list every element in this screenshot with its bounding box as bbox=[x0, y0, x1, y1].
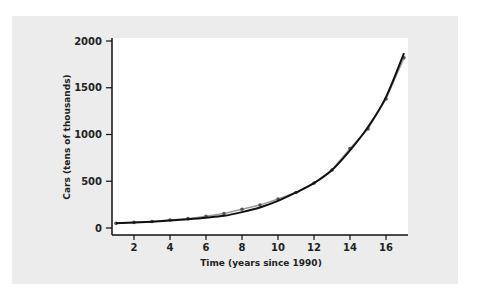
y-tick-label: 1000 bbox=[74, 129, 102, 140]
x-tick-label: 16 bbox=[379, 242, 393, 253]
x-tick-label: 12 bbox=[307, 242, 321, 253]
x-axis-title: Time (years since 1990) bbox=[200, 258, 322, 268]
line-chart: 0500100015002000 246810121416 Time (year… bbox=[0, 0, 477, 303]
y-tick-label: 0 bbox=[95, 223, 102, 234]
y-tick-label: 2000 bbox=[74, 36, 102, 47]
y-tick-labels: 0500100015002000 bbox=[74, 36, 102, 234]
x-tick-label: 10 bbox=[271, 242, 285, 253]
y-tick-label: 500 bbox=[81, 176, 102, 187]
x-tick-label: 6 bbox=[203, 242, 210, 253]
x-tick-label: 4 bbox=[167, 242, 174, 253]
x-tick-labels: 246810121416 bbox=[131, 242, 393, 253]
x-tick-label: 8 bbox=[239, 242, 246, 253]
data-point bbox=[240, 208, 244, 212]
x-tick-label: 14 bbox=[343, 242, 357, 253]
y-tick-label: 1500 bbox=[74, 82, 102, 93]
y-axis-title: Cars (tens of thousands) bbox=[62, 74, 72, 199]
x-tick-label: 2 bbox=[131, 242, 138, 253]
